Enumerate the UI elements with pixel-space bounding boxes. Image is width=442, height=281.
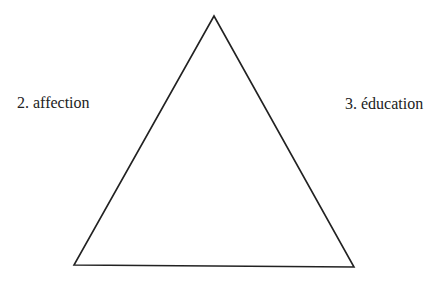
triangle-diagram: 2. affection 3. éducation xyxy=(0,0,442,281)
label-affection: 2. affection xyxy=(17,95,90,111)
triangle-shape xyxy=(0,0,442,281)
label-education: 3. éducation xyxy=(345,96,423,112)
